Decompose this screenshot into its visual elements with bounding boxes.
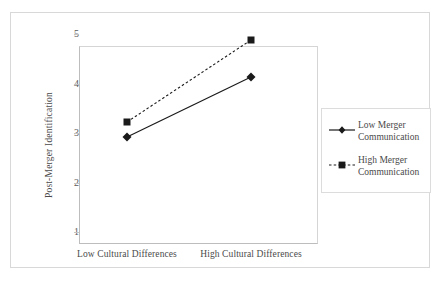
legend-label-high-line2: Communication [358, 167, 419, 177]
legend-swatch-low [328, 125, 356, 135]
legend-label-low-line2: Communication [358, 132, 419, 142]
series-high-merger-communication [124, 37, 255, 126]
figure-frame: Post-Merger Identification 5 4 3 2 1 Low… [10, 12, 430, 268]
diamond-marker-icon [339, 126, 346, 134]
series-low-merger-communication [123, 73, 256, 142]
series-line-low [127, 77, 251, 137]
legend-label-low-line1: Low Merger [358, 120, 406, 130]
diamond-marker-icon [123, 133, 132, 142]
diamond-marker-icon [247, 73, 256, 82]
x-category-label-low: Low Cultural Differences [62, 249, 192, 259]
square-marker-icon [124, 119, 131, 126]
legend-swatch-high [328, 160, 356, 170]
legend-label-high: High Merger Communication [358, 155, 430, 178]
square-marker-icon [248, 37, 255, 44]
legend: Low Merger Communication High Merger Com… [321, 108, 431, 193]
legend-label-low: Low Merger Communication [358, 120, 430, 143]
x-category-label-high: High Cultural Differences [186, 249, 316, 259]
legend-label-high-line1: High Merger [358, 155, 407, 165]
square-marker-icon [339, 162, 346, 169]
legend-entry-high-merger-communication[interactable]: High Merger Communication [328, 157, 428, 187]
series-line-high [127, 40, 251, 122]
legend-entry-low-merger-communication[interactable]: Low Merger Communication [328, 122, 428, 152]
